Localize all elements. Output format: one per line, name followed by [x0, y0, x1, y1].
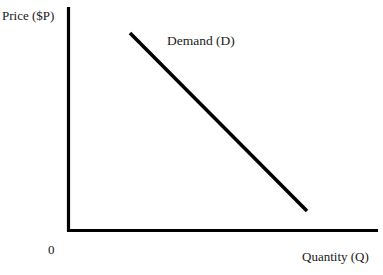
x-axis-title: Quantity (Q) — [302, 250, 369, 263]
y-axis-title: Price ($P) — [2, 9, 54, 22]
origin-label: 0 — [48, 243, 55, 256]
demand-curve-line — [130, 33, 307, 211]
demand-curve-label: Demand (D) — [167, 34, 235, 48]
demand-curve-figure: Price ($P) Quantity (Q) 0 Demand (D) — [0, 0, 383, 275]
